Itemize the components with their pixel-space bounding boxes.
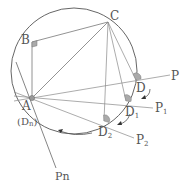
arrowhead-icon (141, 95, 146, 99)
segment-BC (32, 22, 108, 42)
label-B: B (21, 33, 30, 47)
tangent-APn (16, 62, 56, 168)
diagram-canvas: A (Dn) B C D D1 D2 P P1 P2 Pn (0, 0, 187, 184)
arrowhead-icon (117, 121, 122, 125)
circle-angle-diagram: A (Dn) B C D D1 D2 P P1 P2 Pn (0, 0, 187, 184)
ray-AP (14, 75, 170, 101)
label-Dn: (Dn) (17, 116, 37, 128)
angle-marker-D (133, 73, 141, 80)
label-D: D (136, 81, 146, 95)
label-P1: P1 (155, 101, 168, 116)
label-D2: D2 (98, 125, 112, 140)
segment-CD2 (104, 22, 108, 121)
label-Pn: Pn (55, 170, 70, 183)
label-P2: P2 (136, 133, 149, 148)
label-C: C (110, 9, 119, 23)
label-A: A (21, 99, 31, 113)
right-angle-marker-B (32, 41, 37, 47)
label-P: P (171, 69, 179, 83)
segment-CD1 (108, 22, 126, 101)
angle-marker-D2 (104, 115, 110, 123)
segment-AC (32, 22, 108, 98)
label-D1: D1 (125, 105, 139, 120)
